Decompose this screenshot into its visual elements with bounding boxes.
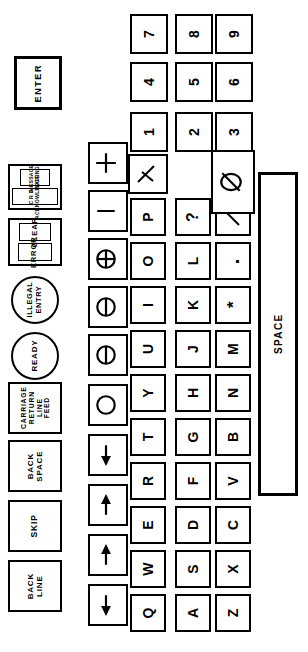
indicator-label: READY xyxy=(30,340,39,372)
key-num-8[interactable]: 8 xyxy=(175,14,213,54)
key-space[interactable]: SPACE xyxy=(258,172,298,496)
key-num-5[interactable]: 5 xyxy=(175,62,213,102)
key-z[interactable]: Z xyxy=(215,594,251,632)
key-label: 8 xyxy=(186,30,202,38)
key-w[interactable]: W xyxy=(130,550,166,588)
key-back-space[interactable]: BACK SPACE xyxy=(8,440,62,492)
key-cancel[interactable] xyxy=(128,154,168,194)
key-label: ? xyxy=(184,212,202,222)
key-skip[interactable]: SKIP xyxy=(8,500,62,552)
key-a[interactable]: A xyxy=(175,594,211,632)
key-k[interactable]: K xyxy=(175,286,211,324)
key-circle-plus[interactable] xyxy=(88,238,128,280)
arrow-right-icon xyxy=(94,443,122,467)
key-f[interactable]: F xyxy=(175,462,211,500)
key-label: SKIP xyxy=(30,514,40,537)
key-g[interactable]: G xyxy=(175,418,211,456)
key-v[interactable]: V xyxy=(215,462,251,500)
key-message-waiting-crd-acknowledge[interactable]: MESSAGE WAITINGC R D ACKNOWLEDGE xyxy=(8,164,62,210)
key-label: * xyxy=(223,302,243,309)
key-r[interactable]: R xyxy=(130,462,166,500)
crd-acknowledge-half[interactable]: C R D ACKNOWLEDGE xyxy=(12,188,58,205)
key-n[interactable]: N xyxy=(215,374,251,412)
key-label: W xyxy=(140,562,156,575)
key-e[interactable]: E xyxy=(130,506,166,544)
key-i[interactable]: I xyxy=(130,286,166,324)
key-cursor-left[interactable] xyxy=(88,484,128,526)
key-circle-minus-upper[interactable] xyxy=(88,286,128,328)
key-label: 4 xyxy=(141,78,157,86)
key-label: SPACE xyxy=(272,314,284,355)
key-num-4[interactable]: 4 xyxy=(130,62,168,102)
key-question-mark[interactable]: ? xyxy=(175,198,211,236)
circle-icon xyxy=(94,393,122,417)
key-label: Z xyxy=(225,609,241,618)
key-circle-minus-lower[interactable] xyxy=(88,334,128,376)
key-cursor-right[interactable] xyxy=(88,434,128,476)
key-asterisk[interactable]: * xyxy=(215,286,251,324)
crd-acknowledge-label: C R D ACKNOWLEDGE xyxy=(29,175,41,219)
error-half[interactable]: ERROR xyxy=(18,243,52,261)
key-period[interactable]: . xyxy=(215,242,251,280)
key-label: F xyxy=(185,477,201,486)
key-label: BACK SPACE xyxy=(26,451,44,482)
arrow-left-icon xyxy=(94,493,122,517)
key-minus[interactable] xyxy=(88,190,128,232)
key-d[interactable]: D xyxy=(175,506,211,544)
key-back-line[interactable]: BACK LINE xyxy=(8,560,62,612)
key-y[interactable]: Y xyxy=(130,374,166,412)
key-l[interactable]: L xyxy=(175,242,211,280)
key-c[interactable]: C xyxy=(215,506,251,544)
key-label: 1 xyxy=(141,128,157,136)
key-circle-key[interactable] xyxy=(88,384,128,426)
key-label: 6 xyxy=(226,78,242,86)
key-label: 9 xyxy=(226,30,242,38)
key-label: U xyxy=(140,344,156,354)
key-label: O xyxy=(140,256,156,267)
key-label: R xyxy=(140,476,156,486)
key-enter[interactable]: ENTER xyxy=(14,56,62,110)
key-h[interactable]: H xyxy=(175,374,211,412)
key-t[interactable]: T xyxy=(130,418,166,456)
key-label: B xyxy=(225,432,241,442)
key-num-3[interactable]: 3 xyxy=(215,112,253,152)
key-carriage-return[interactable]: CARRIAGE RETURN LINE FEED xyxy=(8,382,62,434)
key-label: C xyxy=(225,520,241,530)
plus-icon xyxy=(94,151,122,175)
keyboard-layout-exact: BACK LINESKIPBACK SPACECARRIAGE RETURN L… xyxy=(0,0,308,652)
key-num-7[interactable]: 7 xyxy=(130,14,168,54)
key-label: J xyxy=(185,345,201,353)
key-cursor-up[interactable] xyxy=(88,534,128,576)
minus-icon xyxy=(94,199,122,223)
key-u[interactable]: U xyxy=(130,330,166,368)
key-b[interactable]: B xyxy=(215,418,251,456)
arrow-up-icon xyxy=(94,543,122,567)
key-label: D xyxy=(185,520,201,530)
key-label: ENTER xyxy=(33,64,43,103)
key-label: 7 xyxy=(141,30,157,38)
key-x[interactable]: X xyxy=(215,550,251,588)
key-num-1[interactable]: 1 xyxy=(130,112,168,152)
key-cursor-down[interactable] xyxy=(88,584,128,626)
key-q[interactable]: Q xyxy=(130,594,166,632)
key-label: . xyxy=(222,258,245,264)
key-s[interactable]: S xyxy=(175,550,211,588)
key-label: Q xyxy=(140,608,156,619)
key-label: Y xyxy=(140,388,156,397)
key-plus[interactable] xyxy=(88,142,128,184)
key-label: E xyxy=(140,520,156,529)
key-slashed-zero[interactable] xyxy=(211,150,255,214)
key-label: M xyxy=(225,343,241,355)
key-num-6[interactable]: 6 xyxy=(215,62,253,102)
key-label: X xyxy=(225,564,241,573)
indicator-illegal-entry: ILLEGAL ENTRY xyxy=(11,276,59,324)
key-o[interactable]: O xyxy=(130,242,166,280)
key-j[interactable]: J xyxy=(175,330,211,368)
key-label: 3 xyxy=(226,128,242,136)
key-clear-error[interactable]: CLEARERROR xyxy=(8,218,62,266)
key-p[interactable]: P xyxy=(130,198,166,236)
key-num-9[interactable]: 9 xyxy=(215,14,253,54)
key-m[interactable]: M xyxy=(215,330,251,368)
key-num-2[interactable]: 2 xyxy=(175,112,213,152)
key-label: S xyxy=(185,564,201,573)
